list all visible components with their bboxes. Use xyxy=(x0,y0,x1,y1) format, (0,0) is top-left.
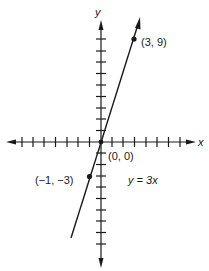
x-axis-label: x xyxy=(197,136,204,148)
origin-label: (0, 0) xyxy=(108,150,134,162)
y-axis-label: y xyxy=(94,6,102,18)
point-neg1-neg3 xyxy=(87,174,92,179)
graph-canvas: y x (3, 9) (0, 0) (−1, −3) y = 3x xyxy=(0,0,209,271)
line-y-equals-3x xyxy=(71,17,141,238)
equation-label: y = 3x xyxy=(127,174,158,186)
coordinate-plane: y x (3, 9) (0, 0) (−1, −3) y = 3x xyxy=(0,0,209,271)
point-3-9-label: (3, 9) xyxy=(141,36,167,48)
point-3-9 xyxy=(131,36,136,41)
point-neg1-neg3-label: (−1, −3) xyxy=(35,174,74,186)
point-origin xyxy=(99,140,104,145)
